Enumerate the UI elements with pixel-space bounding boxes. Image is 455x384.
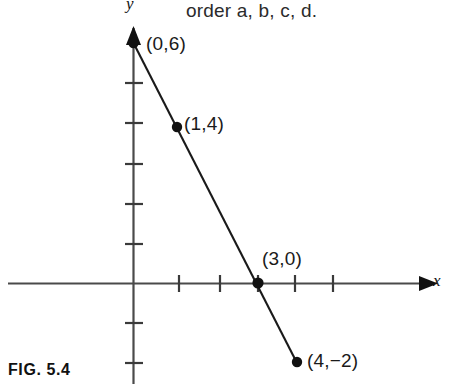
x-axis-label: x	[433, 272, 441, 289]
plot-line-series-1	[134, 43, 298, 363]
point-label-4-neg2: (4,−2)	[307, 351, 358, 370]
data-point-marker	[252, 277, 263, 288]
data-point-marker	[172, 122, 182, 132]
point-label-0-6: (0,6)	[146, 34, 186, 53]
figure-caption: FIG. 5.4	[8, 362, 71, 378]
data-point-marker	[292, 357, 302, 367]
coordinate-plot	[0, 0, 455, 384]
header-note-text: order a, b, c, d.	[186, 1, 317, 20]
point-label-3-0: (3,0)	[262, 249, 302, 268]
point-label-1-4: (1,4)	[184, 114, 224, 133]
y-axis-label: y	[126, 0, 134, 12]
data-point-marker	[128, 38, 138, 48]
figure-container: order a, b, c, d. y x (0,6) (1,4) (3,0) …	[0, 0, 455, 384]
